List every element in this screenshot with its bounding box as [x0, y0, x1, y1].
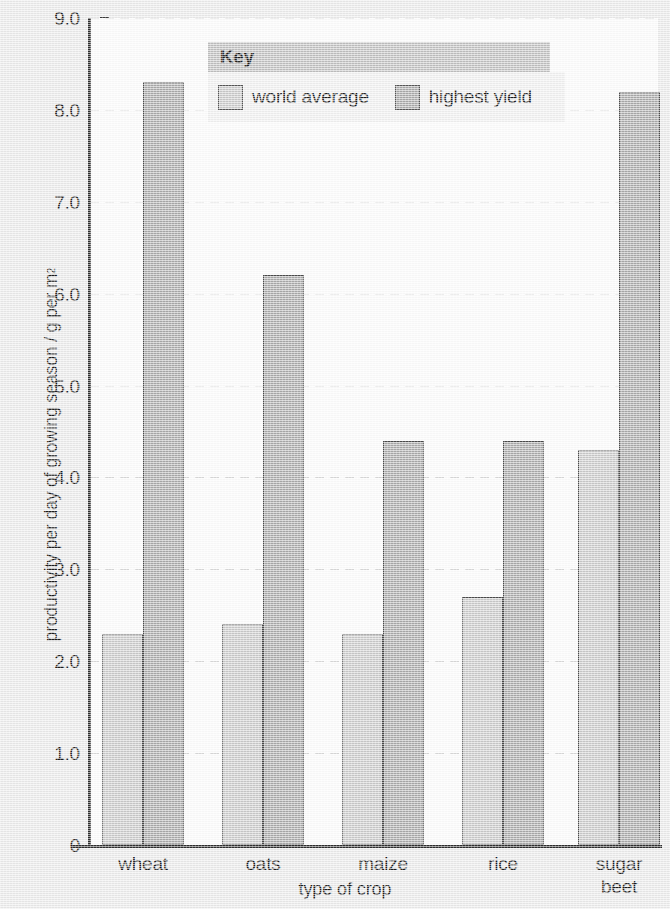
- bar: [578, 450, 619, 845]
- x-axis-category-label: wheat: [83, 852, 203, 875]
- legend-entry: world average: [218, 85, 369, 110]
- y-axis-tick-label: 1.0: [26, 744, 80, 763]
- legend-swatch-icon: [395, 85, 420, 110]
- bar: [222, 624, 263, 845]
- y-axis-tick-label: 8.0: [26, 101, 80, 120]
- y-axis-tick-label: 6.0: [26, 285, 80, 304]
- y-axis-tick-label: 9.0: [26, 9, 80, 28]
- bar: [143, 82, 184, 845]
- x-axis-category-label: maize: [323, 852, 443, 875]
- bar: [383, 441, 424, 845]
- y-axis-line: [88, 18, 91, 847]
- bar: [263, 275, 304, 845]
- bar: [342, 634, 383, 845]
- bar: [619, 92, 660, 845]
- bar: [503, 441, 544, 845]
- x-axis-category-label-line: wheat: [83, 852, 203, 875]
- y-axis-tick-label: 5.0: [26, 377, 80, 396]
- plot-area: [90, 18, 658, 845]
- x-axis-category-label-line: rice: [443, 852, 563, 875]
- bar: [462, 597, 503, 845]
- x-axis-category-label-line: sugar: [559, 852, 670, 875]
- y-axis-tick-labels: 01.02.03.04.05.06.07.08.09.0: [18, 0, 80, 909]
- x-axis-line: [72, 845, 662, 848]
- x-axis-title-text: type of crop: [299, 879, 392, 899]
- y-axis-tick-label: 3.0: [26, 560, 80, 579]
- legend-entry-label: highest yield: [429, 86, 532, 108]
- x-axis-category-label-line: maize: [323, 852, 443, 875]
- gridline: [90, 18, 658, 19]
- y-axis-tick-label: 4.0: [26, 468, 80, 487]
- legend-entry: highest yield: [395, 85, 532, 110]
- x-axis-category-label-line: oats: [203, 852, 323, 875]
- legend: Key world averagehighest yield: [208, 42, 565, 122]
- bar: [102, 634, 143, 845]
- legend-title: Key: [208, 42, 550, 72]
- x-axis-title: type of crop: [0, 879, 670, 900]
- y-axis-tick-label: 2.0: [26, 652, 80, 671]
- y-axis-tick-label: 7.0: [26, 193, 80, 212]
- x-axis-category-label: rice: [443, 852, 563, 875]
- legend-entries: world averagehighest yield: [208, 72, 565, 122]
- legend-swatch-icon: [218, 85, 243, 110]
- legend-entry-label: world average: [252, 86, 369, 108]
- x-axis-category-label: oats: [203, 852, 323, 875]
